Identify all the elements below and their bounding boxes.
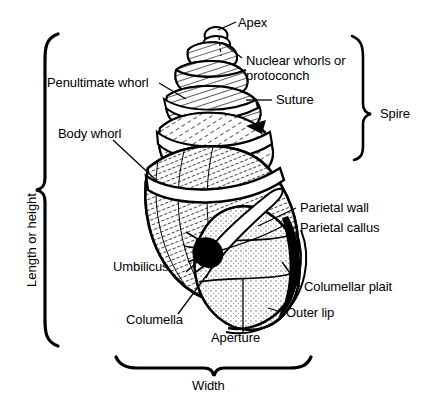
shell-anatomy-figure: Apex Nuclear whorls orprotoconch Penulti… <box>0 0 429 402</box>
label-nuclear-whorls-line1: Nuclear whorls or <box>246 53 345 68</box>
label-columellar-plait: Columellar plait <box>304 280 392 294</box>
leader-apex <box>218 22 236 30</box>
label-suture: Suture <box>276 93 314 107</box>
label-width: Width <box>192 379 225 393</box>
label-parietal-wall: Parietal wall <box>300 201 369 215</box>
label-length-or-height: Length or height <box>24 193 39 287</box>
label-outer-lip: Outer lip <box>286 306 334 320</box>
label-umbilicus: Umbilicus <box>113 260 168 274</box>
label-aperture: Aperture <box>211 331 260 345</box>
label-columella: Columella <box>126 313 183 327</box>
label-penultimate-whorl: Penultimate whorl <box>47 76 149 90</box>
label-nuclear-whorls-line2: protoconch <box>246 68 309 83</box>
leader-body-whorl <box>113 140 156 180</box>
spire-bracket <box>352 36 371 160</box>
label-apex: Apex <box>238 16 267 30</box>
label-body-whorl: Body whorl <box>58 127 121 141</box>
label-parietal-callus: Parietal callus <box>300 221 379 235</box>
width-bracket <box>116 357 311 376</box>
label-spire: Spire <box>380 107 410 121</box>
label-nuclear-whorls: Nuclear whorls orprotoconch <box>246 53 345 83</box>
